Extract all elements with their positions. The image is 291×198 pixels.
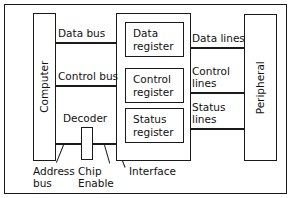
interface-label: Interface xyxy=(129,166,176,178)
decoder-label: Decoder xyxy=(63,113,107,125)
control-lines-label-line1: Control xyxy=(192,66,230,78)
control-lines-segment-right xyxy=(184,92,244,94)
control-register-label-line2: register xyxy=(133,86,174,98)
status-register-label-line2: register xyxy=(133,126,174,138)
chip-enable-label-line1: Chip xyxy=(78,166,102,178)
address-bus-label-line1: Address xyxy=(33,166,75,178)
control-register-label-line1: Control xyxy=(133,73,171,85)
status-lines-segment-right xyxy=(184,128,244,130)
data-register-label-line2: register xyxy=(133,40,174,52)
control-bus-label: Control bus xyxy=(58,71,118,83)
decoder-block xyxy=(81,127,93,160)
interface-block-diagram: Computer Peripheral Data register Contro… xyxy=(0,0,291,198)
address-bus-label-line2: bus xyxy=(33,178,52,190)
chip-enable-label-line2: Enable xyxy=(78,178,114,190)
status-lines-label-line2: lines xyxy=(192,114,216,126)
address-bus-line xyxy=(55,143,82,145)
status-lines-label-line1: Status xyxy=(192,102,225,114)
status-register-label-line1: Status xyxy=(133,113,166,125)
peripheral-block-label: Peripheral xyxy=(255,42,267,134)
data-bus-label: Data bus xyxy=(58,28,105,40)
data-lines-segment-right xyxy=(184,47,244,49)
data-lines-label: Data lines xyxy=(192,33,245,45)
control-lines-label-line2: lines xyxy=(192,78,216,90)
computer-block-label: Computer xyxy=(39,42,51,132)
data-register-label-line1: Data xyxy=(133,27,158,39)
